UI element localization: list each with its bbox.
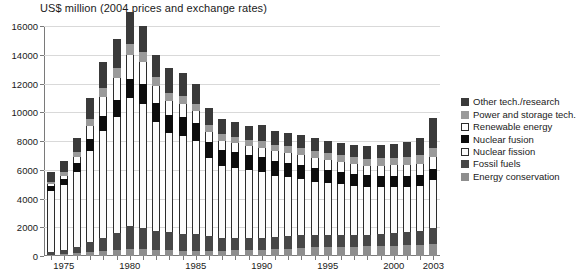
bar-segment <box>192 104 200 111</box>
bar-group[interactable] <box>284 133 292 256</box>
bar-group[interactable] <box>377 145 385 256</box>
bar-segment <box>377 145 385 158</box>
bar-group[interactable] <box>152 55 160 256</box>
legend-item[interactable]: Energy conservation <box>461 170 567 182</box>
legend-item[interactable]: Nuclear fusion <box>461 133 567 145</box>
bar-segment <box>284 163 292 177</box>
x-tick-mark <box>367 256 368 260</box>
bar-segment <box>390 233 398 245</box>
bar-segment <box>231 122 239 137</box>
bar-segment <box>271 151 279 161</box>
bar-group[interactable] <box>205 108 213 256</box>
bar-segment <box>258 238 266 250</box>
bar-group[interactable] <box>403 142 411 256</box>
bar-segment <box>337 172 345 185</box>
bar-group[interactable] <box>416 138 424 256</box>
bar-group[interactable] <box>126 12 134 256</box>
bar-segment <box>165 133 173 232</box>
bar-segment <box>297 248 305 256</box>
x-tick-label: 2003 <box>423 260 444 271</box>
bar-segment <box>271 131 279 145</box>
bar-segment <box>337 143 345 155</box>
y-tick-label: 10000 <box>12 107 38 118</box>
bar-segment <box>350 145 358 157</box>
y-tick-label: 2000 <box>17 222 38 233</box>
bar-group[interactable] <box>311 138 319 256</box>
bar-group[interactable] <box>113 39 121 256</box>
y-tick-label: 16000 <box>12 21 38 32</box>
legend-item[interactable]: Power and storage tech. <box>461 108 567 120</box>
bar-segment <box>139 249 147 256</box>
bar-segment <box>165 101 173 115</box>
legend-item[interactable]: Nuclear fission <box>461 146 567 158</box>
bar-segment <box>311 158 319 169</box>
legend-label: Renewable energy <box>473 122 552 132</box>
bar-group[interactable] <box>297 135 305 256</box>
bar-group[interactable] <box>337 143 345 256</box>
bar-segment <box>416 186 424 231</box>
bar-segment <box>297 235 305 248</box>
x-tick-mark <box>288 256 289 260</box>
legend-item[interactable]: Fossil fuels <box>461 158 567 170</box>
bar-segment <box>297 155 305 165</box>
bar-segment <box>99 116 107 131</box>
x-tick-mark <box>156 256 157 260</box>
bar-group[interactable] <box>363 146 371 256</box>
bar-segment <box>73 138 81 152</box>
bar-segment <box>284 177 292 236</box>
bar-segment <box>139 62 147 84</box>
legend-swatch-icon <box>461 135 469 143</box>
bar-segment <box>60 161 68 172</box>
bar-segment <box>324 183 332 235</box>
bar-segment <box>271 176 279 238</box>
bar-group[interactable] <box>218 119 226 256</box>
bar-segment <box>99 238 107 251</box>
bar-group[interactable] <box>47 172 55 256</box>
bar-segment <box>86 242 94 252</box>
bar-group[interactable] <box>390 144 398 256</box>
bar-segment <box>245 170 253 238</box>
bar-segment <box>324 235 332 247</box>
bar-segment <box>363 246 371 256</box>
chart-title: US$ million (2004 prices and exchange ra… <box>40 2 267 14</box>
bar-segment <box>297 148 305 155</box>
bar-segment <box>311 247 319 256</box>
bar-segment <box>179 117 187 136</box>
legend-item[interactable]: Other tech./research <box>461 96 567 108</box>
bar-segment <box>337 247 345 256</box>
bar-segment <box>126 12 134 44</box>
bar-group[interactable] <box>231 122 239 256</box>
bar-group[interactable] <box>99 62 107 256</box>
bar-segment <box>403 176 411 188</box>
bar-group[interactable] <box>271 131 279 256</box>
bar-segment <box>416 138 424 155</box>
bar-segment <box>86 139 94 151</box>
bar-group[interactable] <box>179 73 187 256</box>
bar-group[interactable] <box>86 98 94 256</box>
bar-segment <box>403 165 411 175</box>
x-tick-mark <box>183 256 184 260</box>
bar-segment <box>179 73 187 96</box>
bar-group[interactable] <box>60 161 68 256</box>
bar-segment <box>390 165 398 175</box>
bar-group[interactable] <box>324 141 332 256</box>
bar-group[interactable] <box>73 138 81 256</box>
bar-segment <box>403 157 411 165</box>
bar-group[interactable] <box>258 125 266 256</box>
bar-segment <box>311 182 319 235</box>
y-tick-label: 0 <box>33 251 38 262</box>
legend-item[interactable]: Renewable energy <box>461 121 567 133</box>
bar-segment <box>113 117 121 233</box>
bar-group[interactable] <box>245 126 253 256</box>
bar-group[interactable] <box>139 26 147 256</box>
x-tick-mark <box>315 256 316 260</box>
bar-group[interactable] <box>165 68 173 256</box>
bar-segment <box>139 228 147 249</box>
bar-group[interactable] <box>350 145 358 256</box>
bar-group[interactable] <box>192 84 200 256</box>
x-tick-mark <box>222 256 223 260</box>
bar-segment <box>350 186 358 235</box>
bar-group[interactable] <box>429 118 437 256</box>
bar-segment <box>416 245 424 256</box>
legend-swatch-icon <box>461 111 469 119</box>
